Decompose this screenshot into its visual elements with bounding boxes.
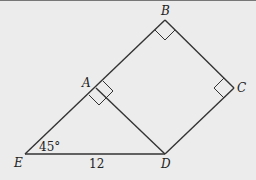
right-angle-mark-C <box>214 78 224 98</box>
right-angle-mark-A-lower <box>89 95 106 105</box>
length-label-ED: 12 <box>89 157 104 171</box>
label-E: E <box>13 156 23 170</box>
label-D: D <box>160 157 171 171</box>
right-angle-mark-B <box>155 30 175 40</box>
label-B: B <box>160 4 170 18</box>
geometry-diagram: B A C E D 45° 12 <box>0 0 256 180</box>
label-A: A <box>81 76 91 90</box>
angle-label-E: 45° <box>39 140 60 154</box>
label-C: C <box>237 81 246 95</box>
